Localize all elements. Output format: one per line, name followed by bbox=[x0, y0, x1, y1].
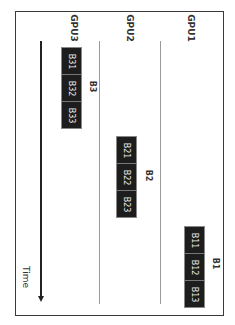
batch-cell-b33: B33 bbox=[62, 102, 81, 129]
lane-label-gpu2: GPU2 bbox=[125, 14, 135, 42]
lane-label-gpu3: GPU3 bbox=[69, 14, 79, 42]
batch-cell-b21: B21 bbox=[117, 137, 136, 164]
batch-cell-b12: B12 bbox=[185, 254, 204, 281]
batch-group-b3: B31 B32 B33 bbox=[61, 47, 82, 129]
time-axis-line bbox=[40, 41, 42, 297]
lane-divider-gpu1 bbox=[160, 41, 161, 304]
batch-cell-b13: B13 bbox=[185, 281, 204, 308]
batch-cell-b31: B31 bbox=[62, 48, 81, 75]
batch-group-b2: B21 B22 B23 bbox=[116, 136, 137, 218]
group-label-b1: B1 bbox=[211, 256, 220, 272]
batch-cell-b11: B11 bbox=[185, 227, 204, 254]
group-label-b3: B3 bbox=[88, 79, 97, 95]
lane-divider-gpu2 bbox=[99, 41, 100, 304]
batch-cell-b22: B22 bbox=[117, 164, 136, 191]
batch-cell-b32: B32 bbox=[62, 75, 81, 102]
time-arrowhead-icon bbox=[38, 296, 44, 302]
lane-label-gpu1: GPU1 bbox=[186, 14, 196, 42]
batch-cell-b23: B23 bbox=[117, 191, 136, 218]
batch-group-b1: B11 B12 B13 bbox=[184, 226, 205, 308]
time-axis-label: Time bbox=[21, 263, 31, 291]
group-label-b2: B2 bbox=[144, 168, 153, 184]
